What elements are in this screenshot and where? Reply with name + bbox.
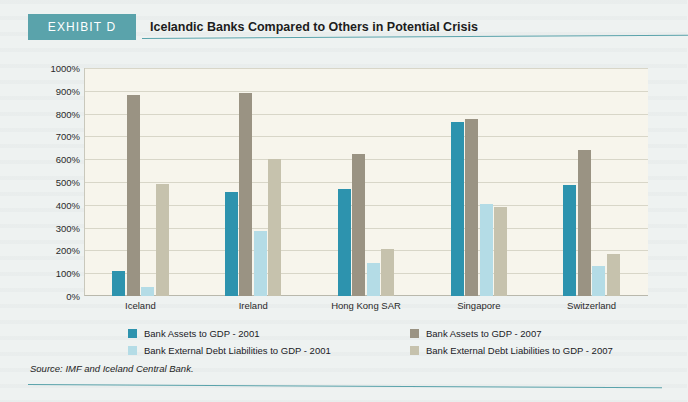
x-axis-category-label: Hong Kong SAR [331, 300, 401, 311]
bar [480, 204, 493, 296]
bar [592, 266, 605, 296]
bar-group [197, 68, 310, 296]
legend-swatch-icon [128, 329, 137, 338]
y-axis-tick-label: 1000% [20, 63, 80, 74]
bar [254, 231, 267, 296]
bar [381, 249, 394, 296]
bar [352, 154, 365, 297]
y-axis-tick-label: 200% [20, 245, 80, 256]
exhibit-header: EXHIBIT D Icelandic Banks Compared to Ot… [28, 14, 658, 40]
bar-group [422, 68, 535, 296]
legend-item: Bank External Debt Liabilities to GDP - … [410, 343, 613, 358]
y-axis-tick-label: 400% [20, 199, 80, 210]
legend-item: Bank Assets to GDP - 2007 [410, 326, 541, 341]
x-axis-category-label: Ireland [239, 300, 268, 311]
bar [563, 185, 576, 296]
y-axis-tick-label: 500% [20, 177, 80, 188]
bar-group [84, 68, 197, 296]
chart-legend: Bank Assets to GDP - 2001Bank External D… [128, 326, 668, 360]
bar-chart: 0%100%200%300%400%500%600%700%800%900%10… [20, 52, 668, 314]
y-axis-tick-label: 900% [20, 85, 80, 96]
legend-label: Bank External Debt Liabilities to GDP - … [144, 345, 331, 356]
legend-item: Bank External Debt Liabilities to GDP - … [128, 343, 331, 358]
x-axis-category-label: Iceland [125, 300, 156, 311]
bar [494, 207, 507, 296]
bar [338, 189, 351, 296]
x-axis-category-label: Singapore [457, 300, 500, 311]
page-title: Icelandic Banks Compared to Others in Po… [150, 20, 478, 34]
bar [451, 122, 464, 296]
y-axis-tick-label: 800% [20, 108, 80, 119]
bar-group [535, 68, 648, 296]
y-axis-tick-label: 100% [20, 268, 80, 279]
bar-group [310, 68, 423, 296]
exhibit-badge: EXHIBIT D [28, 14, 136, 40]
bottom-divider [28, 384, 662, 388]
bars-layer [84, 68, 648, 296]
bar [156, 184, 169, 296]
bar [268, 159, 281, 296]
legend-label: Bank External Debt Liabilities to GDP - … [426, 345, 613, 356]
legend-swatch-icon [410, 329, 419, 338]
bar [578, 150, 591, 296]
bar [112, 271, 125, 296]
y-axis-tick-label: 600% [20, 154, 80, 165]
y-axis-tick-label: 0% [20, 291, 80, 302]
bar [225, 192, 238, 296]
source-note: Source: IMF and Iceland Central Bank. [30, 363, 194, 374]
bar [127, 95, 140, 296]
bar [607, 254, 620, 296]
bar [367, 263, 380, 296]
x-axis-category-label: Switzerland [567, 300, 616, 311]
legend-swatch-icon [410, 346, 419, 355]
legend-label: Bank Assets to GDP - 2007 [426, 328, 541, 339]
y-axis-tick-label: 700% [20, 131, 80, 142]
bar [239, 93, 252, 296]
legend-item: Bank Assets to GDP - 2001 [128, 326, 259, 341]
legend-label: Bank Assets to GDP - 2001 [144, 328, 259, 339]
legend-swatch-icon [128, 346, 137, 355]
bar [141, 287, 154, 296]
bar [465, 119, 478, 296]
y-axis-tick-label: 300% [20, 222, 80, 233]
header-divider [142, 35, 688, 39]
